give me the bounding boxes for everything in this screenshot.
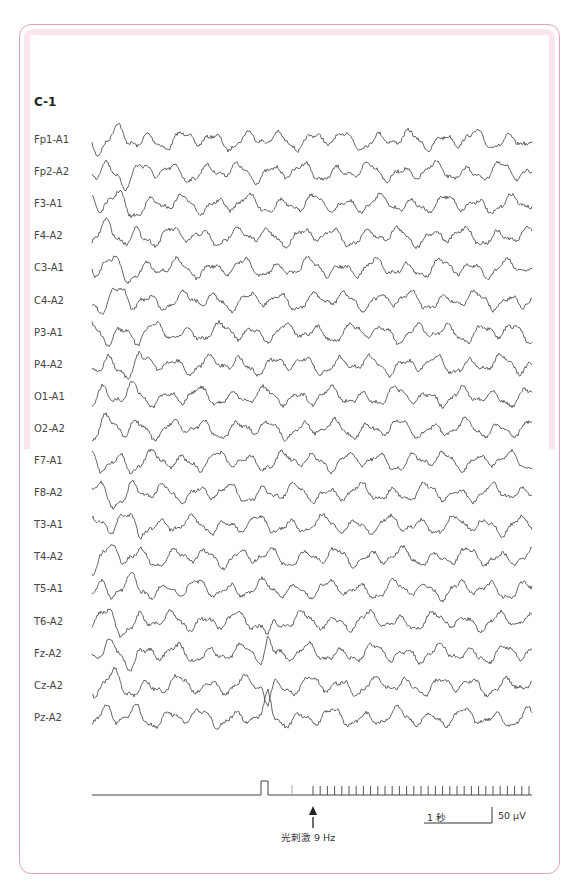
eeg-trace <box>92 413 532 442</box>
eeg-trace <box>92 190 532 218</box>
eeg-trace <box>92 288 532 315</box>
eeg-trace <box>92 351 532 379</box>
eeg-trace <box>92 123 532 156</box>
stimulus-label: 光刺激 9 Hz <box>281 830 335 844</box>
stimulus-trace <box>92 781 532 795</box>
stimulus-arrow-icon <box>309 806 317 828</box>
eeg-trace <box>92 667 532 706</box>
eeg-trace <box>92 636 532 671</box>
eeg-trace <box>92 513 532 539</box>
eeg-trace <box>92 545 532 576</box>
eeg-trace <box>92 218 532 249</box>
eeg-trace <box>92 689 532 729</box>
eeg-trace <box>92 449 532 474</box>
eeg-trace <box>92 381 532 408</box>
eeg-trace <box>92 160 532 191</box>
eeg-trace <box>92 609 532 638</box>
eeg-trace <box>92 256 532 284</box>
eeg-trace <box>92 480 532 509</box>
eeg-trace <box>92 573 532 603</box>
scale-time-label: 1 秒 <box>427 810 446 824</box>
trace-group <box>92 123 532 729</box>
scale-amplitude-label: 50 μV <box>498 810 526 821</box>
eeg-traces <box>0 0 581 886</box>
eeg-trace <box>92 320 532 346</box>
